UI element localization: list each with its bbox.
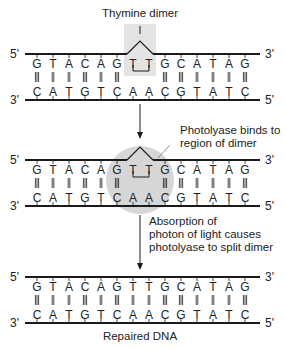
repaired-dna-caption: Repaired DNA <box>103 330 177 342</box>
base-bottom: C <box>241 308 250 322</box>
base-bottom: T <box>193 191 201 205</box>
base-bottom: G <box>80 85 89 99</box>
base-bottom: C <box>113 308 122 322</box>
strand-end-label: 3' <box>10 93 19 107</box>
base-top: C <box>177 57 186 71</box>
repaired-dna-panel: 5'3'3'5'GCTAATCGATGCTATAGCCGATTAATGC <box>10 270 274 330</box>
strand-end-label: 5' <box>10 153 19 167</box>
base-top: T <box>49 280 57 294</box>
base-bottom: T <box>193 308 201 322</box>
base-bottom: G <box>176 85 185 99</box>
base-top: G <box>112 280 121 294</box>
base-bottom: A <box>209 85 217 99</box>
base-top: T <box>129 280 137 294</box>
strand-end-label: 3' <box>265 153 274 167</box>
base-top: T <box>145 163 153 177</box>
strand-end-label: 3' <box>265 47 274 61</box>
base-bottom: A <box>49 85 57 99</box>
base-bottom: A <box>129 308 137 322</box>
base-top: T <box>49 163 57 177</box>
base-bottom: A <box>145 191 153 205</box>
base-top: G <box>240 163 249 177</box>
base-top: A <box>97 280 105 294</box>
base-bottom: T <box>225 85 233 99</box>
base-top: A <box>97 57 105 71</box>
base-bottom: C <box>33 85 42 99</box>
base-top: G <box>32 163 41 177</box>
base-bottom: C <box>33 308 42 322</box>
base-bottom: A <box>209 308 217 322</box>
base-top: C <box>81 163 90 177</box>
strand-end-label: 3' <box>10 199 19 213</box>
base-bottom: G <box>176 308 185 322</box>
base-top: C <box>177 280 186 294</box>
thymine-dimer-title: Thymine dimer <box>102 7 178 19</box>
base-bottom: C <box>161 308 170 322</box>
base-bottom: T <box>65 85 73 99</box>
base-bottom: T <box>225 191 233 205</box>
base-bottom: T <box>193 85 201 99</box>
base-top: C <box>81 280 90 294</box>
base-top: A <box>65 57 73 71</box>
strand-end-label: 5' <box>10 47 19 61</box>
base-bottom: T <box>65 191 73 205</box>
absorption-label: Absorption of <box>149 215 218 227</box>
base-bottom: T <box>97 308 105 322</box>
base-top: G <box>160 280 169 294</box>
photolyase-binding-panel: 5'3'3'5'GCTAATCGATGCTATAGCCGATTAATGC <box>10 146 274 214</box>
base-top: T <box>129 57 137 71</box>
base-bottom: G <box>176 191 185 205</box>
base-top: G <box>160 57 169 71</box>
base-top: G <box>112 57 121 71</box>
strand-end-label: 3' <box>10 316 19 330</box>
base-top: T <box>209 57 217 71</box>
strand-end-label: 5' <box>265 93 274 107</box>
base-bottom: C <box>113 191 122 205</box>
base-top: A <box>225 163 233 177</box>
base-top: A <box>97 163 105 177</box>
photolyase-binds-label: Photolyase binds to <box>180 124 280 136</box>
base-bottom: A <box>145 308 153 322</box>
base-top: A <box>225 57 233 71</box>
base-top: C <box>177 163 186 177</box>
photolyase-binds-label: region of dimer <box>180 137 257 149</box>
strand-end-label: 5' <box>10 270 19 284</box>
strand-end-label: 5' <box>265 316 274 330</box>
base-top: G <box>32 280 41 294</box>
base-bottom: A <box>145 85 153 99</box>
base-top: G <box>160 163 169 177</box>
base-bottom: A <box>129 85 137 99</box>
strand-end-label: 3' <box>265 270 274 284</box>
base-top: A <box>193 57 201 71</box>
base-top: T <box>145 57 153 71</box>
base-top: C <box>81 57 90 71</box>
thymine-dimer-panel: 5'3'3'5'GCTAATCGATGCTATAGCCGATTAATGC <box>10 24 274 107</box>
base-bottom: T <box>65 308 73 322</box>
absorption-label: photon of light causes <box>149 228 261 240</box>
base-bottom: T <box>97 191 105 205</box>
base-top: G <box>32 57 41 71</box>
base-bottom: A <box>49 191 57 205</box>
base-top: G <box>240 57 249 71</box>
base-bottom: C <box>241 191 250 205</box>
base-top: A <box>225 280 233 294</box>
base-top: G <box>112 163 121 177</box>
base-top: A <box>193 163 201 177</box>
base-bottom: C <box>33 191 42 205</box>
diagram-canvas: 5'3'3'5'GCTAATCGATGCTATAGCCGATTAATGC5'3'… <box>0 0 286 348</box>
base-top: A <box>65 280 73 294</box>
base-bottom: C <box>113 85 122 99</box>
base-bottom: T <box>97 85 105 99</box>
arrow-head-icon <box>137 263 143 270</box>
base-bottom: C <box>161 191 170 205</box>
base-bottom: C <box>241 85 250 99</box>
base-bottom: G <box>80 308 89 322</box>
base-top: T <box>209 280 217 294</box>
arrow-head-icon <box>137 132 143 139</box>
base-bottom: A <box>49 308 57 322</box>
base-bottom: G <box>80 191 89 205</box>
base-bottom: A <box>209 191 217 205</box>
base-bottom: A <box>129 191 137 205</box>
base-top: A <box>193 280 201 294</box>
base-bottom: T <box>225 308 233 322</box>
